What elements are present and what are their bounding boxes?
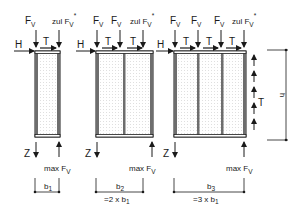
- zul-fv-label: zul FV*: [130, 12, 155, 28]
- top-plate: [96, 51, 153, 54]
- dim-dot-icon: [285, 139, 288, 142]
- stud-right: [243, 51, 246, 137]
- stud-middle: [197, 51, 200, 137]
- t-label: T: [43, 36, 49, 47]
- fv-label: FV: [214, 15, 225, 28]
- b1-label: b1: [44, 182, 52, 192]
- top-plate: [174, 51, 246, 54]
- panel-3: H FV FV FV zul FV* T T T Z max FV b3 =3 …: [156, 12, 288, 205]
- fv-label: FV: [25, 15, 36, 28]
- dim-dot-icon: [173, 191, 176, 194]
- fv-label: FV: [93, 15, 104, 28]
- edge-shear-arrows: T: [254, 55, 264, 130]
- b3-relation-label: =3 x b1: [193, 195, 219, 205]
- h-dimension-label: h: [278, 93, 287, 97]
- wall-panel: [35, 51, 60, 137]
- t-label: T: [229, 36, 235, 47]
- stud-right: [57, 51, 60, 137]
- b3-label: b3: [207, 182, 215, 192]
- fv-label: FV: [191, 15, 202, 28]
- dim-dot-icon: [243, 191, 246, 194]
- z-label: Z: [85, 148, 91, 159]
- t-label: T: [258, 97, 264, 108]
- zul-fv-label: zul FV*: [52, 12, 77, 28]
- wall-panel: [174, 51, 246, 137]
- panel-1: H FV zul FV* T Z max FV b1: [14, 12, 77, 193]
- h-label: H: [77, 39, 84, 50]
- dim-dot-icon: [285, 49, 288, 52]
- max-fv-label: max FV: [226, 164, 253, 175]
- bottom-plate: [35, 135, 60, 138]
- shear-wall-diagram: H FV zul FV* T Z max FV b1 H F: [0, 0, 297, 212]
- stud-left: [96, 51, 99, 137]
- stud-left: [35, 51, 38, 137]
- panel-2: H FV FV zul FV* T T Z max FV b2 =2 x b1: [76, 12, 156, 205]
- height-dimension: h: [267, 49, 288, 142]
- b2-label: b2: [116, 182, 124, 192]
- stud-middle: [123, 51, 126, 137]
- t-label: T: [206, 36, 212, 47]
- stud-left: [174, 51, 177, 137]
- b2-relation-label: =2 x b1: [104, 195, 130, 205]
- max-fv-label: max FV: [44, 164, 71, 175]
- t-label: T: [130, 36, 136, 47]
- bottom-plate: [96, 135, 153, 138]
- fv-label: FV: [111, 15, 122, 28]
- h-label: H: [157, 39, 164, 50]
- t-label: T: [183, 36, 189, 47]
- dim-dot-icon: [95, 191, 98, 194]
- dim-dot-icon: [142, 191, 145, 194]
- dim-dot-icon: [34, 191, 37, 194]
- stud-middle: [221, 51, 224, 137]
- top-plate: [35, 51, 60, 54]
- t-label: T: [105, 36, 111, 47]
- bottom-plate: [174, 135, 246, 138]
- fv-label: FV: [170, 15, 181, 28]
- h-label: H: [15, 39, 22, 50]
- dim-dot-icon: [58, 191, 61, 194]
- zul-fv-label: zul FV*: [232, 12, 257, 28]
- stud-right: [150, 51, 153, 137]
- z-label: Z: [24, 148, 30, 159]
- z-label: Z: [163, 148, 169, 159]
- max-fv-label: max FV: [129, 164, 156, 175]
